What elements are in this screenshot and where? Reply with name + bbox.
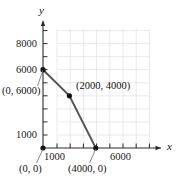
data-point-2000-4000 bbox=[67, 93, 72, 98]
x-tick-label-1000: 1000 bbox=[44, 152, 65, 163]
y-tick-label-8000: 8000 bbox=[16, 39, 37, 50]
data-point-0-6000 bbox=[40, 67, 45, 72]
y-axis bbox=[41, 20, 45, 148]
graph-figure: 8000 6000 1000 1000 6000 y x (0, 6000) (… bbox=[0, 0, 181, 182]
annotation-4000-0: (4000, 0) bbox=[68, 164, 107, 175]
x-axis-name: x bbox=[167, 141, 172, 152]
y-tick-label-6000: 6000 bbox=[16, 65, 37, 76]
x-tick-label-6000: 6000 bbox=[110, 152, 131, 163]
y-axis-name: y bbox=[39, 5, 44, 16]
x-axis bbox=[43, 146, 161, 150]
annotation-0-0: (0, 0) bbox=[19, 164, 42, 175]
annotation-2000-4000: (2000, 4000) bbox=[76, 81, 130, 92]
annotation-0-6000: (0, 6000) bbox=[2, 86, 41, 97]
x-axis-ticks bbox=[57, 144, 149, 149]
y-tick-label-1000: 1000 bbox=[16, 130, 37, 141]
y-axis-ticks bbox=[43, 31, 48, 135]
